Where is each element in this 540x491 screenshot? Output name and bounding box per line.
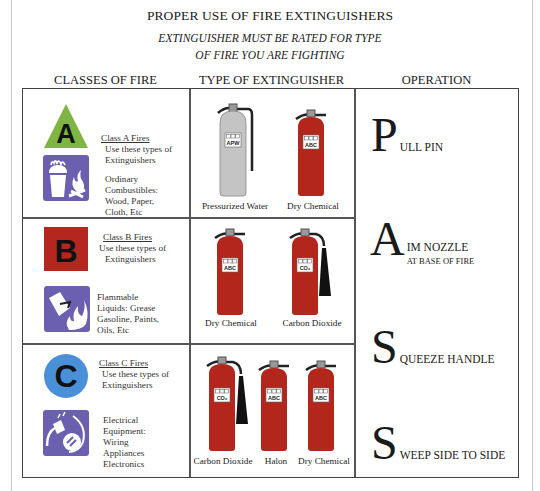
class-a-text: Class A Fires Use these types of Extingu… (101, 133, 172, 218)
class-a-cell: A Class A Fires Use these types of Extin… (23, 89, 189, 217)
class-c-use-text-2: Extinguishers (99, 380, 169, 391)
class-b-desc-line: Oils, Etc (97, 325, 159, 336)
class-c-use-text: Use these types of (99, 369, 169, 380)
page-frame-right (532, 0, 533, 491)
class-c-extinguishers-cell: CO₂ Carbon Dioxide ABC Halon ABC Dry Che… (190, 344, 354, 477)
class-b-use-text: Use these types of (99, 243, 166, 254)
dry-chemical-extinguisher-icon: ABC (211, 228, 251, 316)
operation-letter: A (370, 219, 405, 259)
operation-text: QUEEZE HANDLE (400, 353, 495, 365)
extinguisher-label: Carbon Dioxide (190, 456, 256, 466)
class-a-desc: Combustibles: (101, 185, 172, 196)
class-c-desc-line: Electronics (103, 459, 146, 470)
operation-step-squeeze: S QUEEZE HANDLE (371, 327, 495, 367)
operation-text: IM NOZZLE (407, 241, 469, 253)
poster-title: PROPER USE OF FIRE EXTINGUISHERS (0, 8, 540, 24)
class-a-desc: Ordinary (101, 174, 172, 185)
class-c-desc-line: Appliances (103, 448, 146, 459)
class-b-cell: B Class B Fires Use these types of Extin… (23, 218, 189, 343)
class-c-cell: C Class C Fires Use these types of Extin… (23, 344, 189, 477)
class-c-circle-icon: C (43, 353, 89, 399)
class-c-text: Class C Fires Use these types of Extingu… (99, 358, 169, 391)
carbon-dioxide-extinguisher-icon: CO₂ (203, 356, 251, 452)
flammable-liquids-pictogram-icon (44, 286, 90, 332)
class-b-desc: Flammable Liquids: Grease Gasoline, Pain… (97, 292, 159, 336)
subtitle-line-2: OF FIRE YOU ARE FIGHTING (0, 49, 540, 61)
column-header-operation: OPERATION (354, 73, 519, 88)
class-b-use-text-2: Extinguishers (99, 254, 166, 265)
class-a-use-text: Use these types of (101, 144, 172, 155)
svg-text:C: C (54, 358, 77, 394)
svg-text:A: A (56, 119, 76, 149)
page-frame-left (11, 0, 12, 491)
operation-cell: P ULL PIN A IM NOZZLE AT BASE OF FIRE S … (356, 89, 518, 477)
halon-extinguisher-icon: ABC (255, 360, 295, 452)
svg-text:ABC: ABC (305, 142, 317, 148)
class-b-square-icon: B (44, 227, 88, 271)
class-c-desc: Electrical Equipment: Wiring Appliances … (103, 415, 146, 470)
dry-chemical-extinguisher-icon: ABC (302, 360, 342, 452)
class-b-extinguishers-cell: ABC Dry Chemical CO₂ Carbon Dioxide (190, 218, 354, 343)
svg-text:ABC: ABC (268, 395, 280, 401)
class-b-desc-line: Liquids: Grease (97, 303, 159, 314)
class-a-triangle-icon: A (43, 103, 89, 149)
fire-extinguisher-table: A Class A Fires Use these types of Extin… (22, 88, 519, 478)
operation-text: WEEP SIDE TO SIDE (400, 449, 506, 461)
ordinary-combustibles-pictogram-icon (43, 155, 89, 201)
operation-text: ULL PIN (400, 141, 443, 153)
column-header-types: TYPE OF EXTINGUISHER (189, 73, 354, 88)
operation-step-pull: P ULL PIN (371, 115, 443, 155)
svg-text:ABC: ABC (224, 265, 236, 271)
operation-letter: P (371, 115, 398, 155)
operation-step-aim: A IM NOZZLE AT BASE OF FIRE (370, 219, 474, 269)
class-a-desc: Cloth, Etc (101, 207, 172, 218)
operation-letter: S (371, 423, 398, 463)
dry-chemical-extinguisher-icon: ABC (292, 109, 332, 197)
electrical-equipment-pictogram-icon (43, 410, 89, 456)
class-b-desc-line: Gasoline, Paints, (97, 314, 159, 325)
extinguisher-label: Dry Chemical (296, 456, 352, 466)
class-b-desc-line: Flammable (97, 292, 159, 303)
class-b-title: Class B Fires (99, 232, 166, 243)
svg-text:B: B (54, 233, 77, 269)
carbon-dioxide-extinguisher-icon: CO₂ (286, 228, 334, 316)
class-a-use-text-2: Extinguishers (101, 155, 172, 166)
pressurized-water-extinguisher-icon: APW (212, 101, 256, 197)
class-c-desc-line: Wiring (103, 437, 146, 448)
operation-subtext: AT BASE OF FIRE (407, 255, 475, 267)
operation-text-wrap: IM NOZZLE AT BASE OF FIRE (407, 241, 475, 267)
extinguisher-label: Halon (256, 456, 296, 466)
svg-text:ABC: ABC (315, 395, 327, 401)
class-c-desc-line: Equipment: (103, 426, 146, 437)
svg-text:CO₂: CO₂ (300, 265, 311, 271)
class-b-text: Class B Fires Use these types of Extingu… (99, 232, 166, 265)
class-c-title: Class C Fires (99, 358, 169, 369)
class-c-desc-line: Electrical (103, 415, 146, 426)
extinguisher-label: Dry Chemical (190, 318, 272, 328)
svg-text:APW: APW (227, 140, 241, 146)
subtitle-line-1: EXTINGUISHER MUST BE RATED FOR TYPE (0, 32, 540, 44)
extinguisher-label: Dry Chemical (278, 201, 348, 211)
svg-text:CO₂: CO₂ (217, 395, 228, 401)
column-header-classes: CLASSES OF FIRE (22, 73, 189, 88)
class-a-title: Class A Fires (101, 133, 172, 144)
class-a-extinguishers-cell: APW Pressurized Water ABC Dry Chemical (190, 89, 354, 217)
operation-step-sweep: S WEEP SIDE TO SIDE (371, 423, 505, 463)
operation-letter: S (371, 327, 398, 367)
extinguisher-label: Pressurized Water (190, 201, 280, 211)
class-a-desc: Wood, Paper, (101, 196, 172, 207)
extinguisher-label: Carbon Dioxide (272, 318, 352, 328)
